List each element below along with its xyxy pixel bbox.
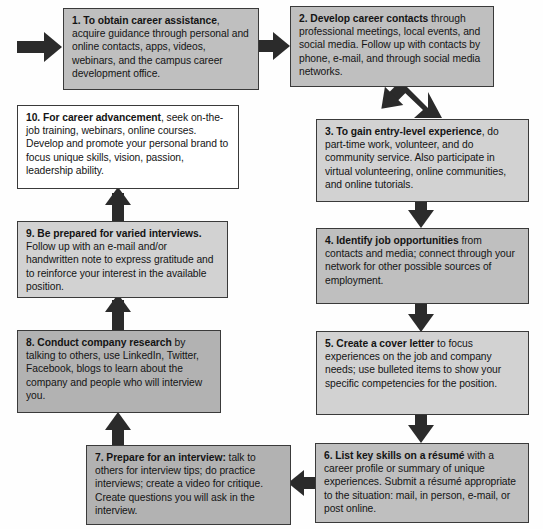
- step-9-box[interactable]: 9. Be prepared for varied interviews. Fo…: [17, 221, 228, 298]
- step-10-box[interactable]: 10. For career advancement, seek on-the-…: [17, 105, 239, 189]
- step-2-number: 2.: [299, 13, 310, 24]
- step-4-box[interactable]: 4. Identify job opportunities from conta…: [316, 228, 529, 304]
- step-2-box[interactable]: 2. Develop career contacts through profe…: [290, 6, 494, 87]
- step-3-box[interactable]: 3. To gain entry-level experience, do pa…: [316, 119, 529, 202]
- step-2-text: 2. Develop career contacts through profe…: [299, 12, 486, 78]
- step-5-box[interactable]: 5. Create a cover letter to focus experi…: [316, 331, 529, 415]
- step-7-box[interactable]: 7. Prepare for an interview: talk to oth…: [86, 445, 291, 525]
- step-6-number: 6.: [324, 450, 335, 461]
- step-8-lead: Conduct company research: [37, 337, 171, 348]
- step-1-box[interactable]: 1. To obtain career assistance, acquire …: [63, 8, 259, 90]
- step-1-number: 1.: [72, 15, 83, 26]
- step-5-text: 5. Create a cover letter to focus experi…: [325, 337, 521, 390]
- step-9-rest: Follow up with an e-mail and/or handwrit…: [26, 241, 213, 292]
- step-7-text: 7. Prepare for an interview: talk to oth…: [95, 451, 283, 517]
- step-10-number: 10.: [26, 112, 43, 123]
- step-9-number: 9.: [26, 228, 37, 239]
- step-8-box[interactable]: 8. Conduct company research by talking t…: [17, 330, 221, 413]
- career-flowchart: 1. To obtain career assistance, acquire …: [0, 0, 543, 529]
- step-7-lead: Prepare for an interview:: [106, 452, 226, 463]
- step-3-text: 3. To gain entry-level experience, do pa…: [325, 125, 521, 191]
- step-1-lead: To obtain career assistance: [83, 15, 217, 26]
- arrow-1-2: [259, 32, 290, 60]
- step-5-number: 5.: [325, 338, 336, 349]
- step-2-lead: Develop career contacts: [310, 13, 428, 24]
- arrow-9-10: [105, 187, 131, 221]
- step-5-lead: Create a cover letter: [336, 338, 434, 349]
- step-6-lead: List key skills on a résumé: [335, 450, 464, 461]
- arrow-3-4: [408, 201, 434, 228]
- step-6-box[interactable]: 6. List key skills on a résumé with a ca…: [315, 443, 529, 523]
- entry-arrow: [17, 32, 62, 62]
- step-3-number: 3.: [325, 126, 336, 137]
- arrow-4-5: [408, 303, 434, 332]
- step-4-lead: Identify job opportunities: [336, 235, 458, 246]
- arrow-6-7: [288, 470, 316, 496]
- step-10-text: 10. For career advancement, seek on-the-…: [26, 111, 231, 177]
- arrow-7-8: [105, 412, 131, 445]
- step-8-text: 8. Conduct company research by talking t…: [26, 336, 213, 402]
- step-4-number: 4.: [325, 235, 336, 246]
- arrow-8-9: [105, 294, 131, 330]
- step-6-text: 6. List key skills on a résumé with a ca…: [324, 449, 521, 515]
- step-10-lead: For career advancement: [43, 112, 161, 123]
- step-9-text: 9. Be prepared for varied interviews. Fo…: [26, 227, 220, 293]
- step-1-text: 1. To obtain career assistance, acquire …: [72, 14, 251, 80]
- step-9-lead: Be prepared for varied interviews.: [37, 228, 201, 239]
- step-3-lead: To gain entry-level experience: [336, 126, 481, 137]
- step-7-number: 7.: [95, 452, 106, 463]
- step-4-text: 4. Identify job opportunities from conta…: [325, 234, 521, 287]
- arrow-5-6: [408, 414, 434, 443]
- step-8-number: 8.: [26, 337, 37, 348]
